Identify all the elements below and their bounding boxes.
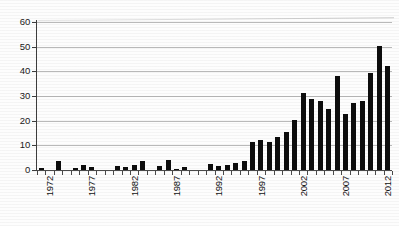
x-tick-14 xyxy=(155,171,156,175)
x-tick-12 xyxy=(138,171,139,175)
bar-2008 xyxy=(343,114,348,170)
y-tick-label-40: 40 xyxy=(4,66,30,75)
bar-1996 xyxy=(242,161,247,170)
x-tick-4 xyxy=(71,171,72,175)
bar-2003 xyxy=(301,93,306,170)
bar-1992 xyxy=(208,164,213,170)
x-tick-label-1972: 1972 xyxy=(45,176,55,196)
x-tick-41 xyxy=(384,171,385,175)
bar-1974 xyxy=(56,161,61,170)
x-tick-18 xyxy=(189,171,190,175)
bar-1986 xyxy=(157,166,162,170)
x-tick-38 xyxy=(358,171,359,175)
x-tick-32 xyxy=(307,171,308,175)
y-tick-label-30: 30 xyxy=(4,91,30,100)
bar-1994 xyxy=(225,165,230,170)
y-tick-mark-0 xyxy=(32,170,36,171)
x-tick-34 xyxy=(324,171,325,175)
x-tick-23 xyxy=(231,171,232,175)
x-tick-26 xyxy=(257,171,258,175)
bar-1981 xyxy=(115,166,120,170)
x-tick-25 xyxy=(248,171,249,175)
bar-2005 xyxy=(318,101,323,170)
bar-1982 xyxy=(123,167,128,170)
bar-1998 xyxy=(258,140,263,170)
x-tick-3 xyxy=(62,171,63,175)
x-tick-37 xyxy=(350,171,351,175)
bar-1983 xyxy=(132,165,137,170)
x-tick-31 xyxy=(299,171,300,175)
bar-1995 xyxy=(233,163,238,170)
bar-1987 xyxy=(166,160,171,170)
x-tick-label-1992: 1992 xyxy=(214,176,224,196)
y-tick-mark-30 xyxy=(32,96,36,97)
bar-2004 xyxy=(309,99,314,170)
bar-1977 xyxy=(81,165,86,170)
x-tick-15 xyxy=(164,171,165,175)
x-tick-0 xyxy=(37,171,38,175)
x-tick-9 xyxy=(113,171,114,175)
bar-1984 xyxy=(140,161,145,170)
x-tick-label-1987: 1987 xyxy=(172,176,182,196)
x-tick-16 xyxy=(172,171,173,175)
bar-2006 xyxy=(326,109,331,170)
y-tick-label-20: 20 xyxy=(4,116,30,125)
x-tick-20 xyxy=(206,171,207,175)
bar-2007 xyxy=(335,76,340,170)
y-tick-mark-20 xyxy=(32,121,36,122)
y-axis-labels: 0102030405060 xyxy=(0,0,30,226)
x-tick-35 xyxy=(333,171,334,175)
x-tick-label-1977: 1977 xyxy=(87,176,97,196)
x-tick-8 xyxy=(105,171,106,175)
x-tick-19 xyxy=(198,171,199,175)
bar-2010 xyxy=(360,101,365,170)
x-tick-42 xyxy=(392,171,393,175)
bar-1976 xyxy=(73,168,78,170)
y-tick-mark-60 xyxy=(32,22,36,23)
x-tick-17 xyxy=(181,171,182,175)
x-tick-label-2007: 2007 xyxy=(341,176,351,196)
bar-1999 xyxy=(267,142,272,170)
y-tick-label-0: 0 xyxy=(4,165,30,174)
x-tick-36 xyxy=(341,171,342,175)
x-tick-label-2002: 2002 xyxy=(299,176,309,196)
gridline-50 xyxy=(37,47,392,48)
x-tick-30 xyxy=(291,171,292,175)
x-tick-13 xyxy=(147,171,148,175)
y-tick-mark-50 xyxy=(32,47,36,48)
y-tick-mark-10 xyxy=(32,145,36,146)
y-tick-label-50: 50 xyxy=(4,42,30,51)
x-tick-5 xyxy=(79,171,80,175)
bar-chart: 0102030405060 19721977198219871992199720… xyxy=(0,0,399,226)
x-tick-22 xyxy=(223,171,224,175)
x-tick-39 xyxy=(367,171,368,175)
top-rule-artifact xyxy=(38,17,394,21)
x-tick-24 xyxy=(240,171,241,175)
plot-area xyxy=(37,22,392,170)
gridline-40 xyxy=(37,71,392,72)
x-tick-33 xyxy=(316,171,317,175)
x-tick-40 xyxy=(375,171,376,175)
x-tick-label-1982: 1982 xyxy=(130,176,140,196)
bar-1978 xyxy=(89,167,94,170)
bar-2013 xyxy=(385,66,390,170)
y-tick-mark-40 xyxy=(32,71,36,72)
bar-1988 xyxy=(174,169,179,170)
x-tick-1 xyxy=(45,171,46,175)
x-tick-28 xyxy=(274,171,275,175)
bar-2012 xyxy=(377,46,382,170)
bar-1972 xyxy=(39,168,44,170)
bar-2002 xyxy=(292,120,297,170)
bar-1993 xyxy=(216,166,221,170)
gridline-60 xyxy=(37,22,392,23)
x-tick-27 xyxy=(265,171,266,175)
bar-1989 xyxy=(182,167,187,170)
bar-2001 xyxy=(284,132,289,170)
x-tick-11 xyxy=(130,171,131,175)
x-tick-29 xyxy=(282,171,283,175)
x-tick-label-1997: 1997 xyxy=(257,176,267,196)
bar-1997 xyxy=(250,142,255,170)
x-tick-2 xyxy=(54,171,55,175)
x-tick-7 xyxy=(96,171,97,175)
x-tick-10 xyxy=(122,171,123,175)
